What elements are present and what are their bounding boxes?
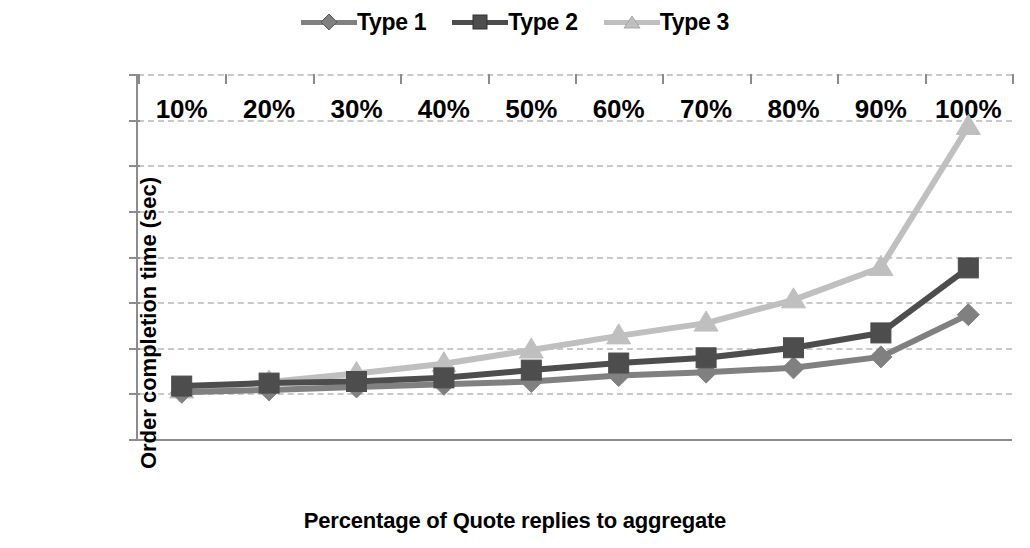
data-point-marker xyxy=(870,346,892,368)
legend-item-type-3: Type 3 xyxy=(604,11,729,34)
series-type-3 xyxy=(170,114,981,397)
legend-key-type-2 xyxy=(452,11,508,33)
series-line xyxy=(182,268,969,386)
data-point-marker xyxy=(871,323,891,343)
x-axis-tick xyxy=(1012,74,1014,84)
data-point-marker xyxy=(956,114,980,134)
x-axis-title: Percentage of Quote replies to aggregate xyxy=(0,508,1030,534)
legend-label-type-1: Type 1 xyxy=(357,11,426,34)
data-point-marker xyxy=(609,353,629,373)
chart-legend: Type 1 Type 2 Type 3 xyxy=(0,4,1030,40)
data-series-layer xyxy=(138,74,1012,439)
legend-key-type-1 xyxy=(301,11,357,33)
data-point-marker xyxy=(696,348,716,368)
data-point-marker xyxy=(434,368,454,388)
legend-label-type-2: Type 2 xyxy=(508,11,577,34)
legend-key-type-3 xyxy=(604,11,660,33)
chart-figure: Type 1 Type 2 Type 3 0200400600800100 xyxy=(0,0,1030,548)
y-axis-title: Order completion time (sec) xyxy=(136,88,162,548)
diamond-icon xyxy=(319,13,339,31)
data-point-marker xyxy=(521,360,541,380)
data-point-marker xyxy=(172,376,192,396)
series-type-1 xyxy=(171,304,980,404)
plot-area: 02004006008001000120014001600 10%20%30%4… xyxy=(136,74,1012,441)
legend-item-type-2: Type 2 xyxy=(452,11,577,34)
data-point-marker xyxy=(784,338,804,358)
legend-item-type-1: Type 1 xyxy=(301,11,426,34)
square-icon xyxy=(470,13,490,31)
data-point-marker xyxy=(783,357,805,379)
triangle-icon xyxy=(622,13,642,31)
data-point-marker xyxy=(958,258,978,278)
data-point-marker xyxy=(347,372,367,392)
legend-label-type-3: Type 3 xyxy=(660,11,729,34)
data-point-marker xyxy=(259,373,279,393)
series-line xyxy=(182,126,969,389)
data-point-marker xyxy=(957,304,979,326)
